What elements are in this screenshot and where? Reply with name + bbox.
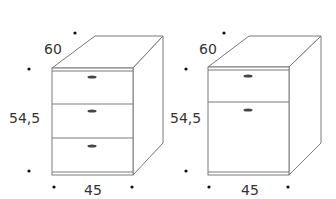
width-label-right: 45 [241, 183, 259, 197]
handle-icon [244, 109, 253, 112]
front-face [52, 68, 133, 175]
height-label-right: 54,5 [170, 111, 201, 125]
depth-label-left: 60 [44, 42, 62, 56]
front-face [208, 67, 289, 175]
pedestal-drawings [0, 0, 336, 199]
cabinet-right [208, 36, 321, 175]
width-label-left: 45 [84, 183, 102, 197]
handle-icon [88, 110, 97, 113]
depth-label-right: 60 [199, 42, 217, 56]
handle-icon [88, 76, 97, 79]
handle-icon [244, 75, 253, 78]
cabinet-left [52, 36, 163, 175]
handle-icon [88, 145, 97, 148]
height-label-left: 54,5 [9, 111, 40, 125]
